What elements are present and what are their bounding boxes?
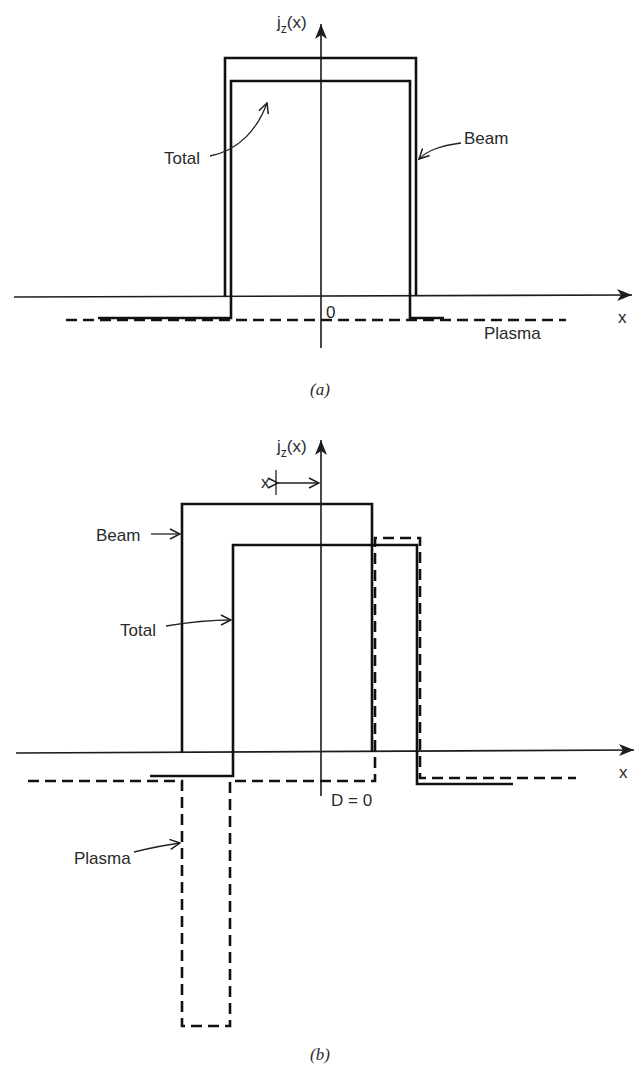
caption-a: (a) <box>310 380 330 399</box>
beam-label-a: Beam <box>464 129 508 148</box>
panel-a: jz(x) Total Beam 0 x Plasma (a) <box>14 13 632 399</box>
figure-canvas: jz(x) Total Beam 0 x Plasma (a) x jz(x) … <box>0 0 642 1084</box>
plasma-label-b: Plasma <box>74 849 131 868</box>
plasma-label-a: Plasma <box>484 324 541 343</box>
total-curve-a <box>98 81 444 318</box>
beam-curve-b <box>182 504 372 752</box>
total-curve-b <box>150 545 513 784</box>
panel-b: x jz(x) Beam Total Plasma D = 0 x (b) <box>16 437 634 1064</box>
x-axis-a <box>14 295 632 297</box>
total-pointer-a <box>210 103 267 156</box>
plasma-pointer-b <box>134 843 180 852</box>
plasma-curve-b <box>28 538 576 1026</box>
total-label-a: Total <box>164 149 200 168</box>
origin-label-b: D = 0 <box>331 791 372 810</box>
origin-label-a: 0 <box>326 303 335 322</box>
beam-pointer-a <box>419 143 461 159</box>
beam-label-b: Beam <box>96 526 140 545</box>
x-axis-label-a: x <box>618 308 627 327</box>
x-axis-label-b: x <box>619 763 628 782</box>
y-axis-label-b: jz(x) <box>276 437 307 460</box>
displacement-label: x <box>261 473 270 492</box>
y-axis-label-a: jz(x) <box>276 13 307 36</box>
caption-b: (b) <box>310 1045 330 1064</box>
total-label-b: Total <box>120 621 156 640</box>
x-axis-b <box>16 750 634 753</box>
total-pointer-b <box>166 620 231 626</box>
